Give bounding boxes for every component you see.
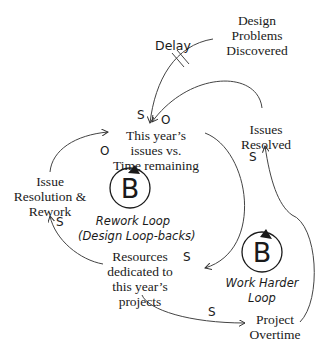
node-design-problems: Design Problems Discovered bbox=[221, 13, 293, 58]
polarity-issues-resolved: O bbox=[161, 114, 170, 126]
polarity-resources: S bbox=[183, 251, 191, 263]
polarity-design-problems: S bbox=[137, 109, 145, 121]
edge-issues-to-resources bbox=[205, 133, 245, 268]
node-issues-resolved: Issues Resolved bbox=[236, 122, 296, 152]
node-project-overtime: Project Overtime bbox=[240, 312, 310, 342]
polarity-overtime: S bbox=[208, 306, 216, 318]
loop-label-rework: Rework Loop (Design Loop-backs) bbox=[78, 214, 188, 244]
node-issue-resolution: Issue Resolution & Rework bbox=[10, 174, 90, 219]
node-issues-vs-time: This year’s issues vs. Time remaining bbox=[106, 128, 206, 173]
causal-loop-diagram: B B Design Problems Discovered Delay Thi… bbox=[0, 0, 331, 354]
svg-text:B: B bbox=[253, 237, 272, 268]
polarity-issues-resolved-in: S bbox=[249, 151, 257, 163]
svg-text:B: B bbox=[121, 173, 140, 204]
polarity-issue-resolution: O bbox=[100, 145, 109, 157]
polarity-issue-resolution-in: S bbox=[56, 216, 64, 228]
node-resources: Resources dedicated to this year’s proje… bbox=[100, 249, 180, 309]
loop-label-work-harder: Work Harder Loop bbox=[222, 276, 302, 306]
balancing-loop-icon-work-harder: B bbox=[242, 229, 282, 272]
delay-label: Delay bbox=[155, 38, 191, 53]
delay-mark-icon bbox=[172, 53, 184, 67]
